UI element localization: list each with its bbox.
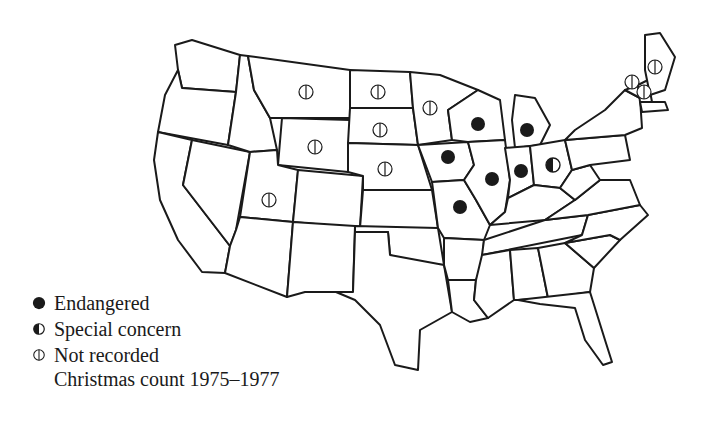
state-florida [518, 292, 612, 365]
marker-endangered-illinois [485, 172, 499, 186]
state-new-york [565, 90, 642, 140]
marker-not-recorded-montana [299, 85, 313, 99]
legend-label: Not recorded [54, 344, 159, 366]
map-legend: Endangered Special concern Not recorded … [32, 290, 280, 390]
filled-circle-icon [32, 296, 46, 310]
marker-not-recorded-utah [262, 193, 276, 207]
legend-item-special-concern: Special concern [32, 316, 280, 342]
state-massachusetts [640, 102, 668, 112]
legend-note: Christmas count 1975–1977 [32, 368, 280, 390]
barred-circle-icon [32, 348, 46, 362]
marker-endangered-michigan [520, 123, 534, 137]
marker-not-recorded-vermont [625, 75, 639, 89]
legend-item-not-recorded: Not recorded [32, 342, 280, 368]
marker-endangered-wisconsin [471, 117, 485, 131]
state-michigan [512, 95, 550, 148]
state-mississippi [474, 250, 514, 318]
legend-label: Special concern [54, 318, 181, 340]
marker-special-concern-ohio [546, 158, 560, 172]
marker-not-recorded-south-dakota [373, 123, 387, 137]
state-kansas [360, 190, 438, 228]
legend-item-endangered: Endangered [32, 290, 280, 316]
marker-not-recorded-wyoming [308, 140, 322, 154]
legend-label: Endangered [54, 292, 150, 314]
marker-not-recorded-nebraska [378, 162, 392, 176]
marker-not-recorded-minnesota [423, 101, 437, 115]
marker-endangered-missouri [453, 200, 467, 214]
marker-endangered-indiana [514, 164, 528, 178]
marker-endangered-iowa [441, 150, 455, 164]
state-new-mexico [287, 222, 355, 297]
state-colorado [293, 170, 363, 228]
marker-not-recorded-north-dakota [371, 85, 385, 99]
marker-not-recorded-new-hampshire [637, 85, 651, 99]
half-filled-circle-icon [32, 322, 46, 336]
marker-not-recorded-maine [648, 60, 662, 74]
state-pennsylvania [565, 135, 630, 170]
state-washington [175, 40, 240, 92]
